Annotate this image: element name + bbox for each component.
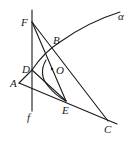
- point-O-dot: [51, 68, 53, 70]
- segment-FC: [32, 22, 108, 121]
- label-f: f: [27, 111, 32, 123]
- label-B: B: [53, 34, 60, 46]
- label-E: E: [61, 104, 69, 116]
- segment-FE: [32, 22, 66, 101]
- geometry-diagram: F B D A O E C f α: [0, 0, 132, 144]
- label-F: F: [20, 16, 28, 28]
- label-alpha: α: [118, 10, 124, 22]
- label-O: O: [56, 64, 64, 76]
- label-C: C: [104, 123, 112, 135]
- label-A: A: [9, 77, 17, 89]
- label-D: D: [21, 63, 30, 75]
